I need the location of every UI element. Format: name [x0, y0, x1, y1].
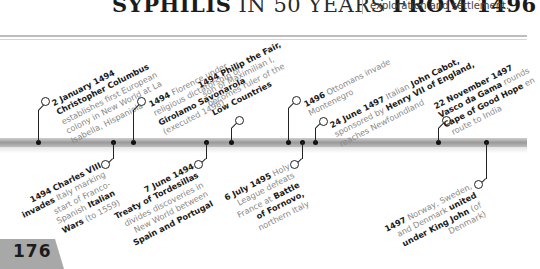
- event-label: 1494 Philip the Fair, son of Maximilian …: [196, 39, 297, 118]
- title-middle: IN 50 YEARS: [231, 0, 392, 17]
- timeline-bar-shadow: [0, 147, 527, 153]
- timeline-stem: [486, 142, 487, 179]
- timeline-stem: [315, 128, 316, 142]
- title-divider: [362, 0, 363, 14]
- timeline-stem: [133, 110, 134, 142]
- timeline-stem: [231, 128, 232, 142]
- timeline-stem: [302, 142, 303, 159]
- event-label: 6 July 1495 Holy League defeats France a…: [199, 161, 311, 252]
- event-marker-icon: [290, 160, 299, 169]
- header-rule-thin: [0, 39, 527, 40]
- subtitle: exploration and settlement.: [370, 0, 509, 11]
- event-marker-icon: [137, 97, 146, 106]
- title-syphilis: SYPHILIS: [112, 0, 231, 17]
- event-marker-icon: [41, 97, 50, 106]
- event-label: 1497 Norway, Sweden, and Denmark united …: [376, 181, 488, 265]
- timeline-stem: [288, 108, 289, 142]
- header-rule: [0, 35, 527, 37]
- timeline-stem: [113, 142, 114, 159]
- event-marker-icon: [474, 180, 483, 189]
- timeline-stem: [206, 142, 207, 159]
- event-marker-icon: [194, 160, 203, 169]
- event-label: 7 June 1494 Treaty of Tordesillas divide…: [103, 161, 215, 252]
- event-marker-icon: [319, 117, 328, 126]
- timeline-stem: [438, 128, 439, 142]
- event-marker-icon: [235, 116, 244, 125]
- timeline-stem: [38, 110, 39, 142]
- page-number: 176: [13, 241, 52, 261]
- event-marker-icon: [292, 96, 301, 105]
